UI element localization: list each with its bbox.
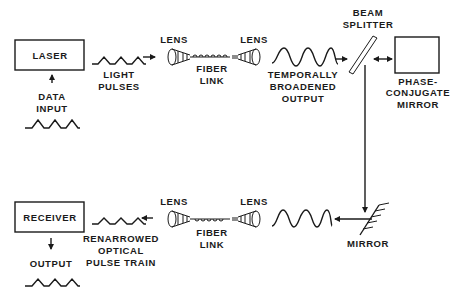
renarrowed-label-1: RENARROWED: [83, 233, 159, 244]
data-input-pulse-icon: [25, 120, 80, 128]
light-pulses-label-1: LIGHT: [103, 69, 135, 80]
beam-splitter-label-2: SPLITTER: [343, 19, 394, 30]
data-input-label-1: DATA: [38, 91, 65, 102]
mirror-label: MIRROR: [347, 238, 389, 249]
broadened-label-3: OUTPUT: [282, 93, 325, 104]
fiber-link-bottom-label-2: LINK: [200, 239, 225, 250]
input-lens-bottom-icon: [232, 211, 260, 227]
receiver-label: RECEIVER: [23, 212, 76, 223]
pcm-label-1: PHASE-: [398, 76, 438, 87]
broadened-output-wave-icon: [272, 48, 338, 66]
light-pulses-icon: [92, 57, 146, 64]
output-lens-bottom-icon: [168, 211, 190, 227]
fiber-link-top-icon: [190, 55, 230, 57]
output-lens-top-icon: [232, 49, 260, 65]
renarrowed-pulses-icon: [92, 218, 146, 224]
optical-system-diagram: LASER DATA INPUT LIGHT PULSES LENS FIBER…: [0, 0, 457, 300]
fiber-link-top-label-2: LINK: [200, 75, 225, 86]
broadened-return-wave-icon: [272, 210, 332, 227]
light-pulses-label-2: PULSES: [98, 81, 140, 92]
laser-label: LASER: [32, 50, 67, 61]
broadened-label-2: BROADENED: [270, 81, 337, 92]
output-label: OUTPUT: [30, 258, 73, 269]
lens-label-4: LENS: [160, 196, 188, 207]
renarrowed-label-2: OPTICAL: [98, 245, 144, 256]
lens-label-2: LENS: [240, 34, 268, 45]
fiber-link-bottom-icon: [190, 219, 230, 221]
lens-label-1: LENS: [160, 34, 188, 45]
fiber-link-top-label-1: FIBER: [196, 63, 228, 74]
renarrowed-label-3: PULSE TRAIN: [86, 257, 156, 268]
receiver-block: RECEIVER: [15, 202, 84, 232]
lens-label-3: LENS: [240, 196, 268, 207]
beam-splitter-icon: [349, 36, 377, 74]
phase-conjugate-mirror-box: [395, 37, 439, 73]
pcm-label-2: CONJUGATE: [386, 87, 450, 98]
data-input-label-2: INPUT: [36, 103, 68, 114]
laser-block: LASER: [15, 40, 84, 70]
beam-splitter-label-1: BEAM: [353, 7, 383, 18]
input-lens-icon: [168, 49, 190, 65]
broadened-label-1: TEMPORALLY: [268, 69, 339, 80]
pcm-label-3: MIRROR: [397, 99, 439, 110]
output-pulse-icon: [25, 279, 80, 286]
fiber-link-bottom-label-1: FIBER: [196, 227, 228, 238]
